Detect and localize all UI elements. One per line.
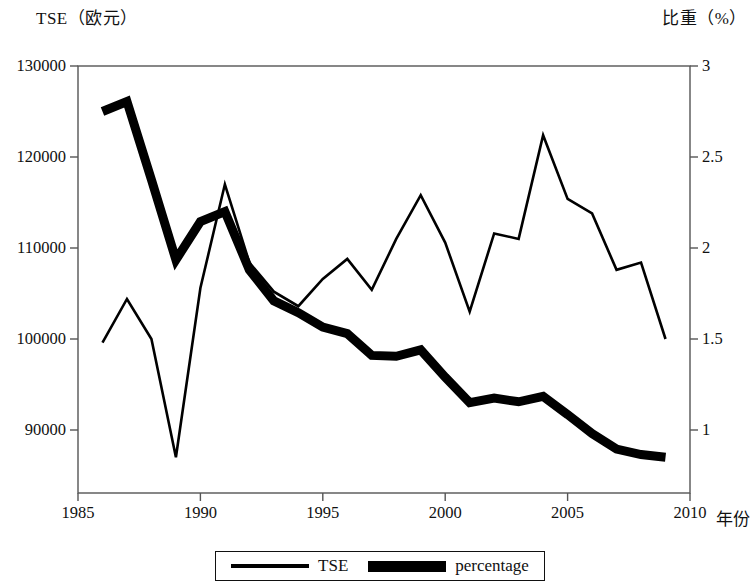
x-tick-label-4: 2005 [551,505,584,522]
legend-swatch-percentage-icon [368,561,446,572]
x-tick-label-1: 1990 [184,505,217,522]
plot-area [0,0,753,586]
right-tick-label-4: 1 [702,422,710,439]
legend-item-percentage: percentage [358,556,539,576]
chart-container: TSE（欧元） 比重（%） 13000012000011000010000090… [0,0,753,586]
right-tick-label-2: 2 [702,240,710,257]
x-tick-label-2: 1995 [306,505,339,522]
left-tick-label-1: 120000 [17,149,67,166]
left-tick-label-2: 110000 [17,240,66,257]
x-axis-name: 年份 [716,505,750,530]
x-tick-label-0: 1985 [62,505,95,522]
left-tick-label-3: 100000 [17,331,67,348]
x-tick-label-3: 2000 [429,505,462,522]
legend-label-tse: TSE [318,556,348,576]
left-tick-label-4: 90000 [25,422,66,439]
right-tick-label-3: 1.5 [702,331,723,348]
series-line-percentage [102,135,665,457]
legend-item-tse: TSE [221,556,358,576]
legend: TSE percentage [215,551,545,581]
right-tick-label-0: 3 [702,58,710,75]
legend-swatch-tse-icon [231,564,309,568]
right-tick-label-1: 2.5 [702,149,723,166]
x-tick-label-5: 2010 [674,505,707,522]
left-tick-label-0: 130000 [17,58,67,75]
legend-label-percentage: percentage [455,556,529,576]
series-line-tse [102,101,665,457]
